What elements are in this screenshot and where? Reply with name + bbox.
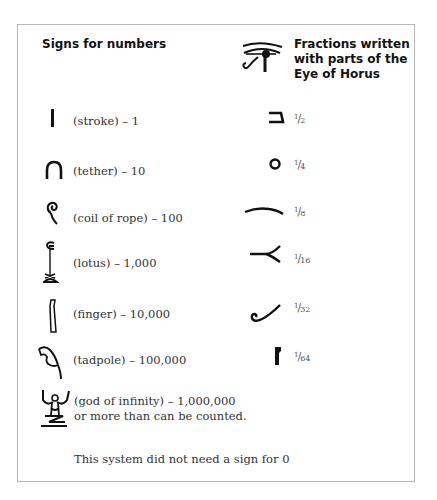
number-label-lotus: (lotus) – 1,000 (73, 256, 157, 270)
coil-of-rope-icon (45, 201, 61, 227)
fraction-sixtyfourth: 1/64 (294, 350, 310, 363)
numbers-heading: Signs for numbers (42, 37, 166, 52)
fraction-sixteenth: 1/16 (294, 252, 310, 265)
number-label-stroke: (stroke) – 1 (73, 114, 139, 128)
footnote: This system did not need a sign for 0 (74, 452, 289, 466)
fraction-half: 1/2 (294, 112, 305, 125)
tether-icon (44, 160, 64, 180)
number-label-finger: (finger) – 10,000 (73, 307, 170, 321)
number-label-coil-of-rope: (coil of rope) – 100 (73, 211, 183, 225)
lotus-icon (43, 240, 59, 286)
tadpole-icon (37, 345, 67, 381)
fractions-heading: Fractions written with parts of the Eye … (294, 37, 414, 82)
eye-part-thirtysecond-icon (248, 303, 284, 325)
eye-part-quarter-icon (268, 157, 282, 171)
stroke-icon (50, 109, 56, 129)
eye-part-sixtyfourth-icon (273, 345, 285, 367)
number-label-tether: (tether) – 10 (73, 164, 145, 178)
god-of-infinity-icon (39, 388, 73, 430)
number-label-god-of-infinity-continued: or more than can be counted. (74, 409, 247, 423)
fraction-thirtysecond: 1/32 (294, 301, 310, 314)
eye-part-sixteenth-icon (248, 244, 284, 264)
finger-icon (47, 298, 61, 334)
fraction-eighth: 1/8 (294, 205, 305, 218)
eye-of-horus-icon (240, 40, 286, 74)
fraction-quarter: 1/4 (294, 158, 305, 171)
eye-part-half-icon (267, 110, 285, 124)
number-label-tadpole: (tadpole) – 100,000 (73, 353, 186, 367)
number-label-god-of-infinity: (god of infinity) – 1,000,000 (74, 394, 236, 408)
eye-part-eighth-icon (243, 205, 285, 217)
